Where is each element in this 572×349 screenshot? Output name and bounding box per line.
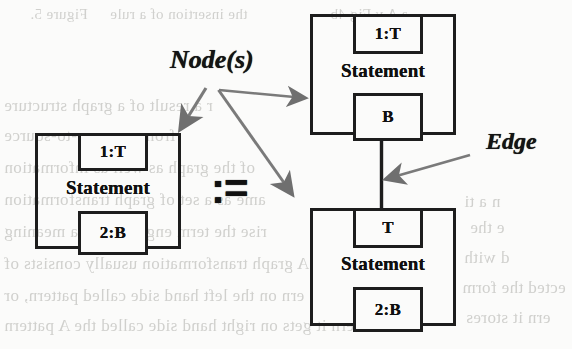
rhs-top-statement-node[interactable]: 1:T Statement B [310,14,456,135]
figure-page: Figure 5. the insertion of a rule a A v … [0,0,572,349]
rhs-bottom-node-top-port[interactable]: T [353,208,423,248]
lhs-node-label: Statement [38,177,178,199]
rhs-bottom-node-bottom-port[interactable]: 2:B [353,287,423,332]
rhs-top-node-top-port[interactable]: 1:T [353,14,423,54]
nodes-annotation-label: Node(s) [170,45,254,75]
rhs-top-node-bottom-port[interactable]: B [353,93,423,141]
lhs-top-port[interactable]: 1:T [78,133,148,171]
assignment-operator: := [211,168,248,210]
nodes-arrow-to-rhs-top [219,90,305,98]
rhs-top-node-label: Statement [313,60,453,82]
edge-arrow-pointer [386,155,470,179]
nodes-arrow-to-lhs [181,88,207,129]
lhs-statement-node[interactable]: 1:T Statement 2:B [35,133,181,249]
lhs-bottom-port[interactable]: 2:B [78,211,148,255]
edge-annotation-label: Edge [486,128,537,155]
rhs-bottom-node-label: Statement [313,253,453,275]
rhs-bottom-statement-node[interactable]: T Statement 2:B [310,208,456,326]
